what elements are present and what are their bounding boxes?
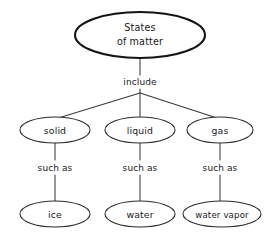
connector-branch-to-solid [55, 93, 140, 119]
node-states-of-matter-label-line1: States [124, 22, 155, 33]
node-gas[interactable]: gas [187, 117, 253, 143]
edge-label-include: include [123, 77, 157, 87]
node-water[interactable]: water [105, 201, 175, 227]
node-water-label: water [126, 209, 153, 220]
node-gas-label: gas [212, 125, 229, 136]
node-states-of-matter-shape [75, 12, 205, 58]
concept-map-canvas: States of matter include solid liquid ga… [0, 0, 277, 241]
node-liquid-label: liquid [127, 125, 153, 136]
edge-label-gas-such-as: such as [203, 163, 238, 173]
concept-map-diagram: States of matter include solid liquid ga… [0, 0, 277, 241]
node-states-of-matter[interactable]: States of matter [75, 12, 205, 58]
node-states-of-matter-label-line2: of matter [117, 36, 163, 47]
node-ice[interactable]: ice [20, 201, 90, 227]
node-water-vapor-label: water vapor [195, 210, 249, 220]
node-ice-label: ice [48, 209, 62, 220]
edge-label-liquid-such-as: such as [123, 163, 158, 173]
connector-branch-to-gas [140, 93, 220, 119]
edge-label-solid-such-as: such as [38, 163, 73, 173]
node-water-vapor[interactable]: water vapor [183, 201, 261, 227]
node-solid-label: solid [44, 125, 66, 136]
node-solid[interactable]: solid [20, 117, 90, 143]
node-liquid[interactable]: liquid [105, 117, 175, 143]
